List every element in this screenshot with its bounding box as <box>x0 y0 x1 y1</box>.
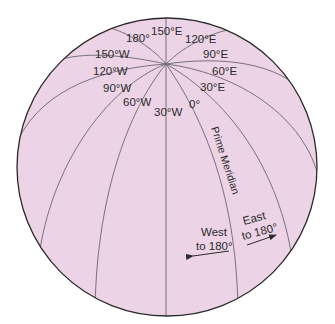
globe-diagram: 180° 150°E 120°E 90°E 60°E 30°E 0° 30°W … <box>0 0 335 324</box>
label-30e: 30°E <box>200 81 225 93</box>
label-60e: 60°E <box>212 65 237 77</box>
label-30w: 30°W <box>154 106 182 118</box>
label-0: 0° <box>189 98 200 110</box>
label-90w: 90°W <box>103 82 131 94</box>
label-120w: 120°W <box>93 65 128 77</box>
label-90e: 90°E <box>203 48 228 60</box>
label-150e: 150°E <box>151 25 183 37</box>
west-label-line2: to 180° <box>196 240 233 252</box>
west-label-line1: West <box>201 226 228 238</box>
label-60w: 60°W <box>123 96 151 108</box>
label-120e: 120°E <box>185 33 217 45</box>
label-180: 180° <box>126 32 150 44</box>
label-150w: 150°W <box>95 48 130 60</box>
